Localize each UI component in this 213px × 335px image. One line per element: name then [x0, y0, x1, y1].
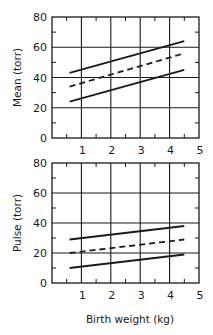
y-tick-label: 80: [33, 157, 47, 170]
x-tick-label: 5: [197, 144, 204, 157]
series-line-upper: [70, 41, 185, 73]
series-line-lower: [70, 70, 185, 102]
series-line-upper: [70, 226, 185, 240]
x-tick-label: 1: [79, 144, 86, 157]
y-tick-label: 60: [33, 41, 47, 54]
x-tick-label: 2: [108, 144, 115, 157]
x-tick-label: 5: [197, 289, 204, 302]
x-tick-label: 4: [167, 289, 174, 302]
y-tick-label: 60: [33, 187, 47, 200]
y-tick-label: 0: [40, 132, 47, 145]
pulse-pressure-chart: 02040608012345Pulse (torr)Birth weight (…: [11, 157, 204, 325]
x-tick-label: 2: [108, 289, 115, 302]
y-tick-label: 80: [33, 11, 47, 24]
series-line-mean: [70, 240, 185, 254]
y-axis-title: Mean (torr): [11, 48, 23, 107]
figure: 02040608012345Mean (torr) 02040608012345…: [0, 0, 213, 335]
x-tick-label: 1: [79, 289, 86, 302]
x-tick-label: 4: [167, 144, 174, 157]
x-tick-label: 3: [138, 144, 145, 157]
x-tick-label: 3: [138, 289, 145, 302]
y-tick-label: 40: [33, 72, 47, 85]
y-axis-title: Pulse (torr): [11, 194, 23, 252]
x-axis-title: Birth weight (kg): [86, 313, 174, 325]
y-tick-label: 40: [33, 217, 47, 230]
y-tick-label: 20: [33, 102, 47, 115]
y-tick-label: 0: [40, 277, 47, 290]
y-tick-label: 20: [33, 247, 47, 260]
series-line-mean: [70, 53, 185, 86]
series-line-lower: [70, 255, 185, 269]
mean-pressure-chart: 02040608012345Mean (torr): [11, 11, 204, 157]
